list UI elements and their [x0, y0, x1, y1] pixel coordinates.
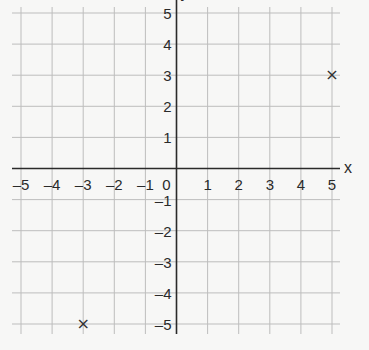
- x-tick-label: 0: [162, 176, 170, 193]
- y-tick-label: –3: [155, 254, 172, 271]
- y-tick-label: 4: [163, 36, 171, 53]
- x-tick-label: 3: [266, 176, 274, 193]
- data-point-marker: ×: [76, 314, 89, 333]
- x-axis-label: x: [344, 159, 352, 176]
- coordinate-grid: xy–5–4–3–2–101234554321–1–2–3–4–5××: [0, 0, 369, 350]
- y-tick-label: –4: [155, 285, 172, 302]
- y-tick-label: –5: [155, 316, 172, 333]
- y-tick-label: 3: [163, 67, 171, 84]
- y-tick-label: 1: [163, 129, 171, 146]
- y-tick-label: 5: [163, 5, 171, 22]
- x-tick-label: –1: [137, 176, 154, 193]
- x-tick-label: 4: [297, 176, 305, 193]
- x-tick-label: 5: [328, 176, 336, 193]
- y-tick-label: 2: [163, 98, 171, 115]
- x-tick-label: –5: [13, 176, 30, 193]
- x-tick-label: –4: [44, 176, 61, 193]
- data-point-marker: ×: [325, 65, 338, 84]
- y-tick-label: –1: [155, 192, 172, 209]
- y-tick-label: –2: [155, 223, 172, 240]
- y-axis-label: y: [181, 0, 189, 1]
- x-tick-label: –2: [106, 176, 123, 193]
- x-tick-label: 1: [203, 176, 211, 193]
- x-tick-label: –3: [75, 176, 92, 193]
- x-tick-label: 2: [235, 176, 243, 193]
